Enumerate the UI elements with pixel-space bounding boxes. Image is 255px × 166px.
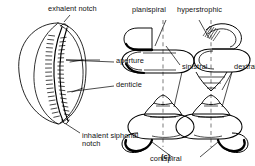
label-hyperstrophic: hyperstrophic: [177, 6, 222, 14]
cowrie-shell-drawing: [19, 23, 86, 124]
label-exhalent-notch: exhalent notch: [48, 5, 97, 13]
conispiral-dextral-shell-drawing: [176, 95, 248, 153]
label-dextral: dextral: [234, 63, 255, 71]
label-inhalent-siphonal-notch: inhalent siphonal notch: [82, 132, 140, 148]
label-aperture: aperture: [116, 57, 144, 65]
hyperstrophic-dextral-shell-drawing: [194, 24, 250, 91]
label-sinistral: sinistral: [182, 63, 208, 71]
label-denticle: denticle: [116, 81, 142, 89]
figure-caption: (c): [161, 152, 170, 161]
label-planispiral: planispiral: [132, 6, 166, 14]
gastropod-shell-morphology-figure: exhalent notch aperture denticle inhalen…: [0, 0, 255, 166]
